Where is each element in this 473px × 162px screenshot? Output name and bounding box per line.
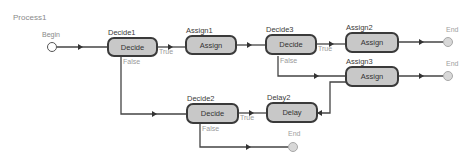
end1-label: End (446, 26, 458, 33)
decide2-false-label: False (202, 125, 219, 132)
assign3-node[interactable]: Assign (345, 66, 399, 87)
end3-terminal[interactable] (288, 142, 298, 152)
begin-label: Begin (42, 31, 60, 38)
end2-terminal[interactable] (443, 71, 453, 81)
connector-lines (0, 0, 473, 162)
decide2-name: Decide2 (187, 94, 215, 103)
assign1-name: Assign1 (186, 26, 213, 35)
end2-label: End (446, 60, 458, 67)
end1-terminal[interactable] (443, 37, 453, 47)
decide3-name: Decide3 (266, 25, 294, 34)
decide2-node[interactable]: Decide (186, 103, 239, 124)
assign3-name: Assign3 (346, 57, 373, 66)
assign2-node[interactable]: Assign (345, 32, 399, 53)
decide1-name: Decide1 (108, 28, 136, 37)
decide1-node[interactable]: Decide (107, 37, 158, 57)
delay2-node[interactable]: Delay (266, 102, 318, 123)
decide3-true-label: True (318, 45, 332, 52)
decide3-node[interactable]: Decide (265, 34, 317, 55)
assign1-node[interactable]: Assign (185, 35, 237, 55)
decide1-true-label: True (159, 48, 173, 55)
decide1-false-label: False (123, 58, 140, 65)
begin-terminal[interactable] (47, 42, 57, 52)
assign2-name: Assign2 (346, 23, 373, 32)
decide3-false-label: False (280, 57, 297, 64)
decide2-true-label: True (240, 114, 254, 121)
delay2-name: Delay2 (267, 93, 290, 102)
end3-label: End (288, 130, 300, 137)
